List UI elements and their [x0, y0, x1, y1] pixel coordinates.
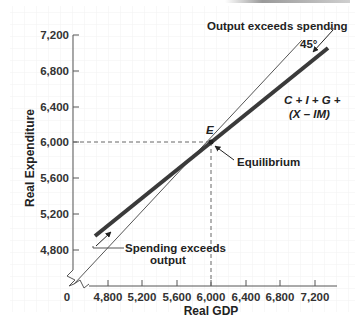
- income-expenditure-chart: 7,200 6,800 6,400 6,000 5,600 5,200 4,80…: [0, 0, 364, 336]
- y-tick-label: 5,600: [40, 172, 69, 184]
- y-axis-title: Real Expenditure: [23, 109, 37, 207]
- spending-exceeds-label-line1: Spending exceeds: [125, 242, 226, 254]
- output-exceeds-label: Output exceeds spending: [207, 20, 348, 32]
- ae-label-line1: C + I + G +: [284, 94, 341, 106]
- x-tick-label: 7,200: [301, 291, 330, 303]
- top-decoration-bar: [225, 0, 350, 3]
- y-tick-label: 6,400: [40, 101, 69, 113]
- y-tick-label: 6,000: [40, 136, 69, 148]
- x-tick-label: 5,600: [163, 291, 192, 303]
- x-tick-label: 5,200: [128, 291, 157, 303]
- x-tick-label: 6,400: [232, 291, 261, 303]
- y-tick-label: 5,200: [40, 208, 69, 220]
- equilibrium-point: [209, 140, 214, 145]
- x-axis-title: Real GDP: [184, 304, 239, 318]
- x-tick-labels: 4,800 5,200 5,600 6,000 6,400 6,800 7,20…: [94, 291, 330, 303]
- origin-label: 0: [64, 291, 70, 303]
- x-tick-label: 4,800: [94, 291, 123, 303]
- x-tick-label: 6,800: [266, 291, 295, 303]
- spending-exceeds-label-line2: output: [150, 254, 186, 266]
- y-tick-label: 7,200: [40, 29, 69, 41]
- x-tick-label: 6,000: [197, 291, 226, 303]
- background-grid: [10, 6, 355, 312]
- y-tick-label: 4,800: [40, 244, 69, 256]
- point-e-label: E: [206, 124, 214, 136]
- equilibrium-label: Equilibrium: [237, 156, 300, 168]
- y-tick-label: 6,800: [40, 65, 69, 77]
- ae-label-line2: (X – IM): [289, 108, 330, 120]
- forty-five-degree-label: 45°: [300, 38, 318, 50]
